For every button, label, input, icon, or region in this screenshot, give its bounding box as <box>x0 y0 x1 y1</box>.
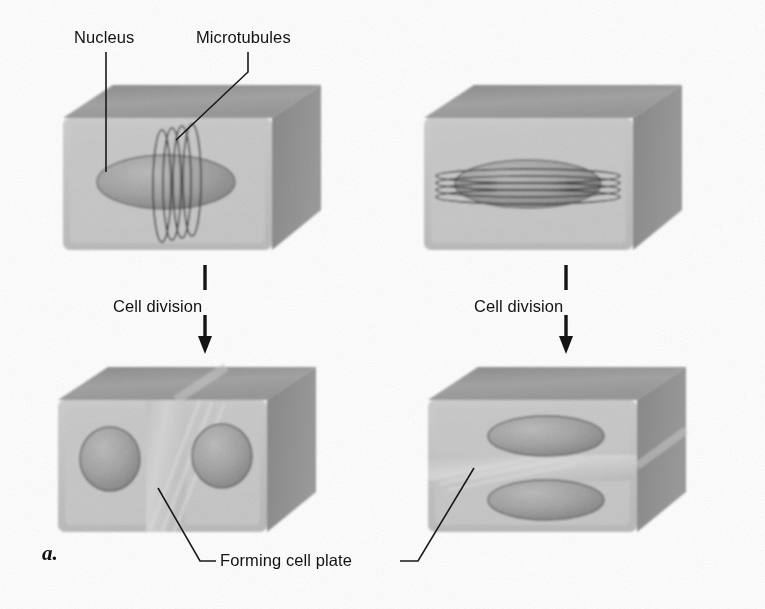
plant-cell-division-figure: Nucleus Microtubules Cell division Cell … <box>0 0 765 609</box>
nucleus-texture <box>97 155 235 209</box>
label-cell-division-left: Cell division <box>113 297 202 316</box>
cell-bottom-right <box>428 367 686 532</box>
label-cell-division-right: Cell division <box>474 297 563 316</box>
label-nucleus: Nucleus <box>74 28 134 47</box>
cell-top-right <box>424 85 682 250</box>
label-microtubules: Microtubules <box>196 28 291 47</box>
arrowhead <box>559 336 573 354</box>
cell-bottom-left <box>58 367 316 532</box>
arrowhead <box>198 336 212 354</box>
cell-top-left <box>63 85 321 250</box>
figure-part-label: a. <box>42 541 58 566</box>
label-forming-cell-plate: Forming cell plate <box>220 551 352 570</box>
